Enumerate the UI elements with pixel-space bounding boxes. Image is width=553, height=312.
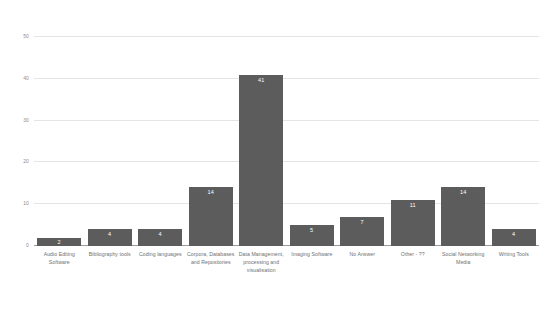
x-axis-label: Data Management, processing and visualis… — [236, 250, 287, 274]
bar-value-label: 11 — [391, 203, 435, 209]
bar-chart: 01020304050 24414415711144 Audio Editing… — [0, 0, 553, 312]
bar-slot: 14 — [438, 37, 489, 246]
bar-slot: 4 — [489, 37, 540, 246]
bar[interactable]: 2 — [37, 238, 81, 246]
y-tick-label: 0 — [26, 242, 29, 248]
bar-value-label: 14 — [441, 190, 485, 196]
bar-value-label: 4 — [88, 232, 132, 238]
bar-value-label: 41 — [239, 78, 283, 84]
x-axis-label: Writing Tools — [489, 250, 540, 274]
y-tick-label: 10 — [23, 200, 29, 206]
bar[interactable]: 11 — [391, 200, 435, 246]
bar-slot: 2 — [34, 37, 85, 246]
bar[interactable]: 4 — [492, 229, 536, 246]
bar[interactable]: 4 — [138, 229, 182, 246]
bar[interactable]: 7 — [340, 217, 384, 246]
bar-slot: 5 — [287, 37, 338, 246]
bar[interactable]: 4 — [88, 229, 132, 246]
y-tick-label: 20 — [23, 158, 29, 164]
bar-slot: 4 — [135, 37, 186, 246]
bar[interactable]: 14 — [441, 187, 485, 246]
bar-value-label: 7 — [340, 220, 384, 226]
x-axis-label: Imaging Software — [287, 250, 338, 274]
bar-value-label: 14 — [189, 190, 233, 196]
x-axis-label: Audio Editing Software — [34, 250, 85, 274]
x-axis-label: Other - ?? — [388, 250, 439, 274]
bar-value-label: 2 — [37, 240, 81, 246]
plot-area: 01020304050 24414415711144 — [34, 37, 539, 246]
bar-value-label: 4 — [492, 232, 536, 238]
bar-value-label: 4 — [138, 232, 182, 238]
bar[interactable]: 41 — [239, 75, 283, 246]
bar[interactable]: 5 — [290, 225, 334, 246]
bar-series: 24414415711144 — [34, 37, 539, 246]
bar-slot: 4 — [85, 37, 136, 246]
bar[interactable]: 14 — [189, 187, 233, 246]
bar-slot: 11 — [388, 37, 439, 246]
bar-value-label: 5 — [290, 228, 334, 234]
x-axis-labels: Audio Editing SoftwareBibliography tools… — [34, 250, 539, 274]
x-axis-label: Social Networking Media — [438, 250, 489, 274]
x-axis-label: Bibliography tools — [85, 250, 136, 274]
bar-slot: 41 — [236, 37, 287, 246]
x-axis-label: Corpora, Databases and Repositories — [186, 250, 237, 274]
x-axis-label: Coding languages — [135, 250, 186, 274]
y-tick-label: 30 — [23, 117, 29, 123]
bar-slot: 7 — [337, 37, 388, 246]
x-axis-label: No Answer — [337, 250, 388, 274]
bar-slot: 14 — [186, 37, 237, 246]
y-tick-label: 40 — [23, 75, 29, 81]
y-tick-label: 50 — [23, 33, 29, 39]
